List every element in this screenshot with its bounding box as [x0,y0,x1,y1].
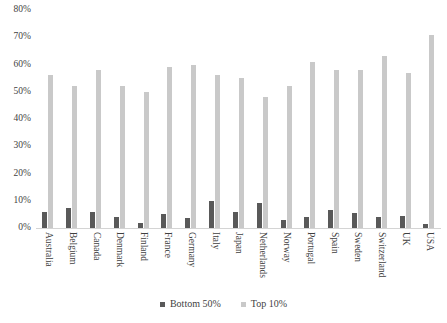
x-axis-label-cell: Finland [132,230,155,300]
x-axis-label-cell: Japan [227,230,250,300]
y-axis-tick: 50% [14,87,31,97]
bar-top10 [215,75,220,228]
y-axis-tick: 30% [14,142,31,152]
y-axis: 0%10%20%30%40%50%60%70%80% [0,0,36,238]
x-axis-label: Norway [281,232,291,263]
x-axis-label: Netherlands [257,232,267,278]
bar-group [209,10,220,228]
bar-chart: 0%10%20%30%40%50%60%70%80% AustraliaBelg… [0,0,447,323]
bar-bottom50 [161,214,166,228]
bar-bottom50 [138,223,143,228]
bar-top10 [144,92,149,228]
bar-bottom50 [185,218,190,228]
bar-group [376,10,387,228]
x-axis-label-cell: Belgium [60,230,83,300]
bar-group [161,10,172,228]
bar-group [114,10,125,228]
bar-top10 [429,35,434,228]
legend-label: Top 10% [251,299,287,309]
bar-group [90,10,101,228]
y-axis-tick: 60% [14,60,31,70]
bar-group [423,10,434,228]
x-axis-label: Italy [210,232,220,249]
bar-bottom50 [423,224,428,228]
x-axis-label: Spain [329,232,339,254]
bar-top10 [334,70,339,228]
legend-item[interactable]: Bottom 50% [160,299,221,309]
bar-top10 [358,70,363,228]
bar-bottom50 [42,212,47,228]
bar-group [185,10,196,228]
x-axis-label-cell: Sweden [346,230,369,300]
x-axis-label: France [162,232,172,258]
bar-top10 [310,62,315,228]
x-axis-label: Switzerland [377,232,387,277]
x-axis-label-cell: UK [394,230,417,300]
x-axis-baseline [36,228,441,229]
bar-group [257,10,268,228]
x-axis-label-cell: Australia [36,230,59,300]
bar-group [66,10,77,228]
x-axis-label-cell: Netherlands [251,230,274,300]
x-axis-label-cell: France [155,230,178,300]
bar-bottom50 [90,212,95,228]
legend-swatch-icon [160,302,165,307]
bar-top10 [287,86,292,228]
x-axis-label: USA [424,232,434,251]
bar-top10 [72,86,77,228]
x-axis-label-cell: Switzerland [370,230,393,300]
x-axis-label-cell: Germany [179,230,202,300]
bar-groups [36,10,441,228]
bar-bottom50 [209,201,214,228]
bar-group [304,10,315,228]
bar-group [281,10,292,228]
bar-group [138,10,149,228]
bar-top10 [263,97,268,228]
y-axis-tick: 40% [14,114,31,124]
bar-top10 [96,70,101,228]
x-axis-label-cell: Spain [322,230,345,300]
legend-swatch-icon [241,302,246,307]
bar-bottom50 [400,216,405,228]
x-axis-label-cell: Canada [84,230,107,300]
x-axis-label: Denmark [115,232,125,267]
bar-top10 [382,56,387,228]
bar-bottom50 [257,203,262,228]
bar-bottom50 [328,210,333,228]
x-axis-label: Japan [234,232,244,254]
x-axis-label-cell: USA [417,230,440,300]
x-axis-label: Canada [91,232,101,261]
y-axis-tick: 70% [14,33,31,43]
x-axis-label-cell: Denmark [108,230,131,300]
y-axis-tick: 80% [14,5,31,15]
x-axis-label: Finland [138,232,148,261]
x-axis-label: Australia [43,232,53,267]
bar-group [233,10,244,228]
bar-top10 [406,73,411,228]
bar-top10 [120,86,125,228]
bar-bottom50 [281,220,286,228]
bar-top10 [167,67,172,228]
chart-legend: Bottom 50%Top 10% [0,299,447,309]
bar-bottom50 [376,217,381,228]
legend-label: Bottom 50% [170,299,221,309]
x-axis-labels: AustraliaBelgiumCanadaDenmarkFinlandFran… [36,230,441,300]
bar-bottom50 [66,208,71,228]
bar-bottom50 [352,213,357,228]
bar-bottom50 [114,217,119,228]
bar-bottom50 [233,212,238,228]
x-axis-label-cell: Norway [275,230,298,300]
bar-top10 [48,75,53,228]
x-axis-label: UK [400,232,410,246]
x-axis-label: Sweden [353,232,363,262]
bar-group [352,10,363,228]
legend-item[interactable]: Top 10% [241,299,287,309]
x-axis-label: Germany [186,232,196,267]
bar-group [328,10,339,228]
bar-group [400,10,411,228]
bar-top10 [239,78,244,228]
x-axis-label-cell: Italy [203,230,226,300]
y-axis-tick: 10% [14,196,31,206]
x-axis-label: Portugal [305,232,315,264]
x-axis-label: Belgium [67,232,77,265]
